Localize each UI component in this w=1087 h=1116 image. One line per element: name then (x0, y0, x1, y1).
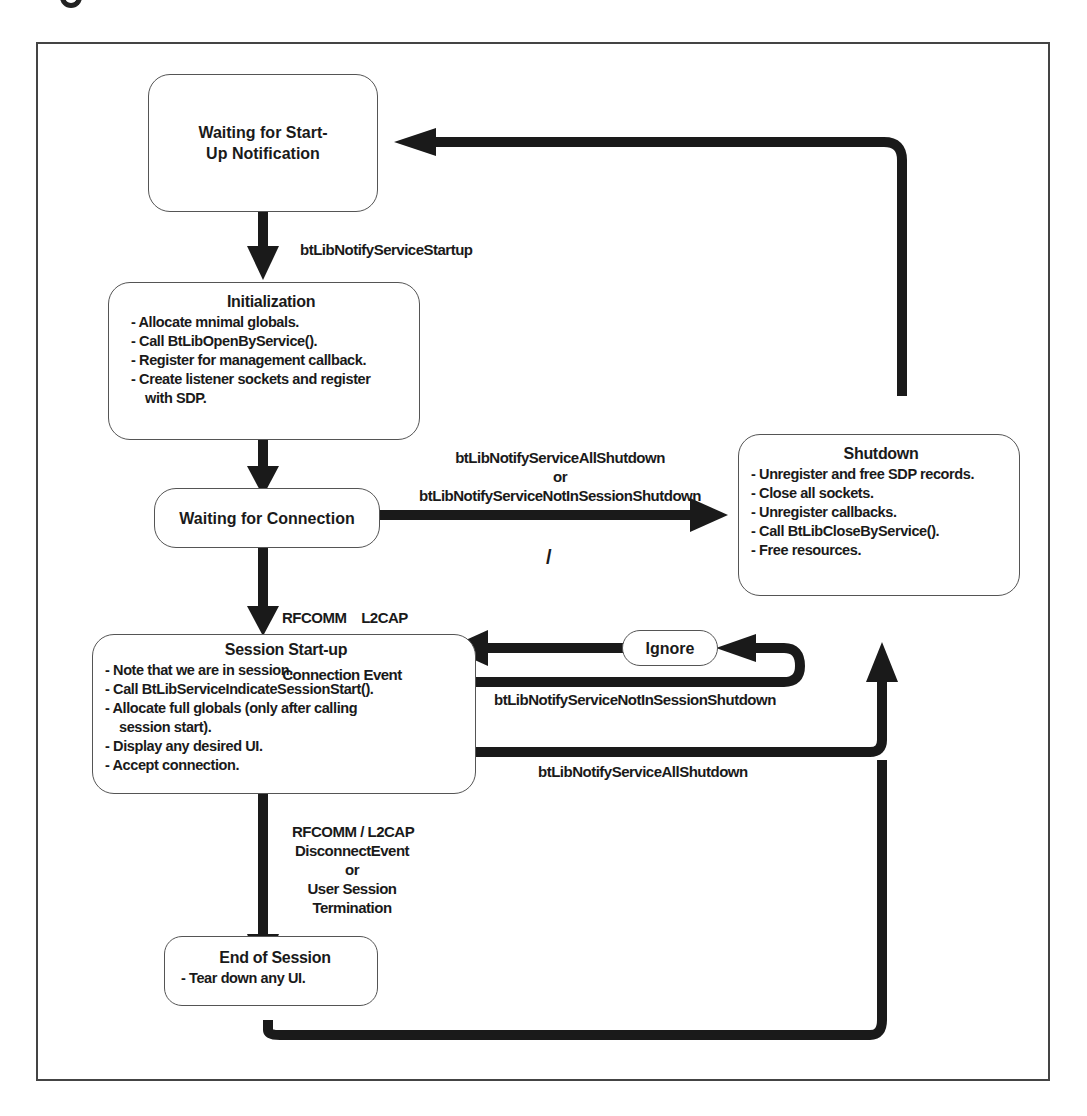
node-ignore-title: Ignore (646, 638, 695, 659)
list-item: Register for management callback. (131, 351, 411, 370)
list-item: Accept connection. (105, 756, 467, 775)
label-not-in-session: btLibNotifyServiceNotInSessionShutdown (494, 690, 776, 709)
node-shutdown: Shutdown Unregister and free SDP records… (738, 434, 1020, 596)
node-waiting-startup: Waiting for Start-Up Notification (148, 74, 378, 212)
list-item: Allocate mnimal globals. (131, 313, 411, 332)
label-disconnect: RFCOMM / L2CAP DisconnectEvent or User S… (292, 822, 412, 917)
list-item: Display any desired UI. (105, 737, 467, 756)
label-all-shutdown: btLibNotifyServiceAllShutdown (538, 762, 748, 781)
list-item: Allocate full globals (only after callin… (105, 699, 369, 737)
label-connection-event-line1: RFCOMM L2CAP (282, 608, 402, 627)
label-disconnect-line1: RFCOMM / L2CAP (292, 822, 412, 841)
list-item: Tear down any UI. (181, 969, 369, 988)
list-item: Call BtLibOpenByService(). (131, 332, 411, 351)
shutdown-steps: Unregister and free SDP records. Close a… (751, 465, 1011, 560)
node-waiting-connection: Waiting for Connection (154, 488, 380, 548)
list-item: Unregister callbacks. (751, 503, 1011, 522)
label-disconnect-or: or (292, 860, 412, 879)
node-end-session: End of Session Tear down any UI. (164, 936, 378, 1006)
edge-shutdown-to-startup (394, 128, 902, 396)
label-disconnect-line3: User Session (292, 879, 412, 898)
label-startup: btLibNotifyServiceStartup (300, 240, 473, 259)
edge-connection-event (247, 546, 279, 636)
label-to-shutdown-line1: btLibNotifyServiceAllShutdown (410, 448, 710, 467)
end-session-steps: Tear down any UI. (181, 969, 369, 988)
label-connection-event-line2: Connection Event (282, 665, 402, 684)
node-initialization-title: Initialization (131, 293, 411, 311)
label-slash: / (546, 548, 551, 567)
node-end-session-title: End of Session (181, 949, 369, 967)
node-waiting-connection-title: Waiting for Connection (179, 508, 354, 529)
list-item: Create listener sockets and register wit… (131, 370, 375, 408)
node-waiting-startup-title: Waiting for Start-Up Notification (188, 122, 338, 164)
node-shutdown-title: Shutdown (751, 445, 1011, 463)
list-item: Unregister and free SDP records. (751, 465, 1011, 484)
label-disconnect-line4: Termination (292, 898, 412, 917)
edge-startup (247, 212, 279, 280)
label-to-shutdown: btLibNotifyServiceAllShutdown or btLibNo… (410, 448, 710, 505)
node-initialization: Initialization Allocate mnimal globals. … (108, 282, 420, 440)
initialization-steps: Allocate mnimal globals. Call BtLibOpenB… (131, 313, 411, 408)
label-to-shutdown-line2: btLibNotifyServiceNotInSessionShutdown (410, 486, 710, 505)
label-connection-event: RFCOMM L2CAP Connection Event (282, 570, 402, 703)
node-ignore: Ignore (622, 630, 718, 666)
label-disconnect-line2: DisconnectEvent (292, 841, 412, 860)
label-to-shutdown-or: or (410, 467, 710, 486)
list-item: Free resources. (751, 541, 1011, 560)
list-item: Call BtLibCloseByService(). (751, 522, 1011, 541)
list-item: Close all sockets. (751, 484, 1011, 503)
